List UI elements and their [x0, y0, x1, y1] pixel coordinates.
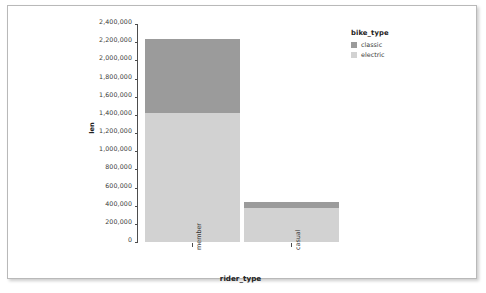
y-tick-mark — [135, 133, 138, 134]
y-tick-label: 1,000,000 — [99, 145, 132, 152]
x-axis-title: rider_type — [138, 274, 343, 283]
y-tick-label: 2,200,000 — [99, 36, 132, 43]
chart-frame: 2,400,0002,200,0002,000,0001,800,0001,60… — [7, 5, 477, 279]
legend-item-electric[interactable]: electric — [351, 51, 389, 59]
y-tick-mark — [135, 224, 138, 225]
y-tick-label: 1,200,000 — [99, 127, 132, 134]
y-tick-label: 1,800,000 — [99, 73, 132, 80]
bar-segment-member-classic — [145, 39, 240, 113]
x-tick-mark — [291, 243, 292, 247]
chart-screenshot: 2,400,0002,200,0002,000,0001,800,0001,60… — [0, 0, 486, 293]
legend-swatch-icon — [351, 42, 357, 48]
legend-item-label: electric — [361, 51, 385, 59]
legend-item-label: classic — [361, 41, 382, 49]
y-tick-mark — [135, 42, 138, 43]
y-tick-mark — [135, 242, 138, 243]
legend-item-classic[interactable]: classic — [351, 41, 389, 49]
y-tick-label: 200,000 — [105, 218, 132, 225]
y-tick-label: 600,000 — [105, 182, 132, 189]
y-tick-mark — [135, 79, 138, 80]
y-tick-mark — [135, 24, 138, 25]
legend: bike_type classicelectric — [351, 29, 389, 61]
x-tick-label: casual — [294, 229, 302, 250]
y-axis-title: len — [88, 122, 96, 133]
y-tick-label: 0 — [128, 236, 132, 243]
bar-casual — [244, 202, 339, 242]
y-tick-label: 800,000 — [105, 163, 132, 170]
y-tick-mark — [135, 169, 138, 170]
bar-segment-casual-classic — [244, 202, 339, 209]
y-tick-mark — [135, 60, 138, 61]
y-tick-label: 400,000 — [105, 200, 132, 207]
x-tick-label: member — [195, 223, 203, 250]
legend-items: classicelectric — [351, 41, 389, 59]
y-tick-mark — [135, 115, 138, 116]
y-tick-mark — [135, 97, 138, 98]
y-tick-label: 2,400,000 — [99, 18, 132, 25]
bar-member — [145, 39, 240, 242]
legend-title: bike_type — [351, 29, 389, 37]
y-tick-label: 2,000,000 — [99, 54, 132, 61]
legend-swatch-icon — [351, 52, 357, 58]
y-tick-mark — [135, 188, 138, 189]
y-tick-mark — [135, 151, 138, 152]
y-tick-mark — [135, 206, 138, 207]
y-tick-label: 1,600,000 — [99, 91, 132, 98]
x-tick-mark — [192, 243, 193, 247]
bar-segment-member-electric — [145, 113, 240, 242]
y-tick-label: 1,400,000 — [99, 109, 132, 116]
bar-segment-casual-electric — [244, 208, 339, 242]
